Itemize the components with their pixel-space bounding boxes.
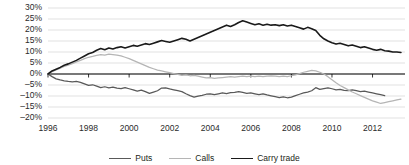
y-tick-label: 0% (0, 69, 42, 78)
x-tick-label: 2004 (190, 124, 230, 133)
y-tick-label: –5% (0, 80, 42, 89)
x-tick-label: 2010 (312, 124, 352, 133)
legend-label: Calls (195, 154, 214, 163)
x-tick-label: 2006 (231, 124, 271, 133)
legend-swatch-line-icon (109, 158, 131, 159)
y-tick-label: –15% (0, 102, 42, 111)
legend-item: Carry trade (231, 154, 300, 163)
legend-item: Puts (109, 154, 152, 163)
y-tick-label: 10% (0, 47, 42, 56)
y-tick-label: 20% (0, 25, 42, 34)
y-tick-label: 25% (0, 14, 42, 23)
chart-legend: PutsCallsCarry trade (0, 154, 409, 163)
y-tick-label: 15% (0, 36, 42, 45)
y-tick-label: –10% (0, 91, 42, 100)
y-tick-label: 5% (0, 58, 42, 67)
x-tick-label: 1998 (69, 124, 109, 133)
legend-label: Puts (135, 154, 152, 163)
series-line-carry-trade (48, 21, 401, 74)
x-tick-label: 2008 (271, 124, 311, 133)
legend-swatch-line-icon (169, 158, 191, 159)
legend-swatch-line-icon (231, 158, 253, 159)
x-tick-label: 2002 (150, 124, 190, 133)
legend-item: Calls (169, 154, 214, 163)
y-tick-label: 30% (0, 3, 42, 12)
chart-container: 30%25%20%15%10%5%0%–5%–10%–15%–20% 19961… (0, 0, 409, 165)
x-tick-label: 2000 (109, 124, 149, 133)
y-tick-label: –20% (0, 113, 42, 122)
x-tick-label: 2012 (353, 124, 393, 133)
line-chart-plot (0, 0, 409, 165)
legend-label: Carry trade (257, 154, 300, 163)
x-tick-label: 1996 (28, 124, 68, 133)
